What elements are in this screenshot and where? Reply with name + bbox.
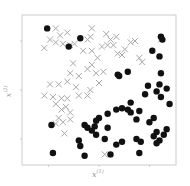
dot-marker bbox=[107, 151, 113, 157]
dot-marker bbox=[159, 36, 165, 42]
cross-marker bbox=[76, 93, 82, 99]
cross-marker bbox=[56, 81, 62, 87]
dot-marker bbox=[77, 35, 83, 41]
cross-marker bbox=[84, 37, 90, 43]
cross-marker bbox=[64, 79, 70, 85]
cross-marker bbox=[110, 42, 116, 48]
cross-marker bbox=[73, 84, 79, 90]
cross-marker bbox=[53, 39, 59, 45]
cross-marker bbox=[100, 69, 106, 75]
dot-marker bbox=[66, 43, 72, 49]
cross-marker bbox=[84, 93, 90, 99]
plot-frame bbox=[22, 15, 176, 165]
cross-marker bbox=[72, 41, 78, 47]
cross-marker bbox=[95, 55, 101, 61]
dot-marker bbox=[113, 141, 119, 147]
cross-marker bbox=[99, 44, 105, 50]
dot-marker bbox=[125, 106, 131, 112]
cross-marker bbox=[113, 34, 119, 40]
scatter-chart bbox=[0, 0, 190, 186]
cross-marker bbox=[89, 62, 95, 68]
cross-marker bbox=[96, 80, 102, 86]
dot-marker bbox=[119, 139, 125, 145]
dot-marker bbox=[136, 108, 142, 114]
dot-marker bbox=[153, 88, 159, 94]
cross-marker bbox=[47, 81, 53, 87]
cross-marker bbox=[76, 73, 82, 79]
cross-marker bbox=[67, 109, 73, 115]
dot-marker bbox=[149, 48, 155, 54]
cross-marker bbox=[53, 25, 59, 31]
cross-marker bbox=[108, 37, 114, 43]
dot-marker bbox=[116, 73, 122, 79]
cross-marker bbox=[57, 32, 63, 38]
dot-marker bbox=[136, 150, 142, 156]
cross-marker bbox=[122, 46, 128, 52]
dot-marker bbox=[44, 25, 50, 31]
dot-marker bbox=[156, 53, 162, 59]
dot-marker bbox=[161, 132, 167, 138]
cross-marker bbox=[80, 48, 86, 54]
dot-marker bbox=[166, 101, 172, 107]
cross-marker bbox=[93, 70, 99, 76]
cross-marker bbox=[59, 95, 65, 101]
dot-marker bbox=[163, 85, 169, 91]
cross-marker bbox=[115, 51, 121, 57]
dot-marker bbox=[153, 129, 159, 135]
cross-marker bbox=[53, 101, 59, 107]
dot-marker bbox=[76, 137, 82, 143]
dot-marker bbox=[145, 83, 151, 89]
cross-marker bbox=[64, 95, 70, 101]
dot-marker bbox=[104, 111, 110, 117]
cross-marker bbox=[67, 70, 73, 76]
dot-marker bbox=[77, 143, 83, 149]
cross-marker bbox=[41, 93, 47, 99]
cross-marker bbox=[50, 94, 56, 100]
dot-marker bbox=[127, 99, 133, 105]
cross-marker bbox=[67, 116, 73, 122]
dot-marker bbox=[119, 105, 125, 111]
dot-marker bbox=[102, 136, 108, 142]
cross-marker bbox=[132, 38, 138, 44]
cross-marker bbox=[41, 45, 47, 51]
dot-marker bbox=[146, 119, 152, 125]
dot-marker bbox=[156, 81, 162, 87]
x-axis-label: x(1) bbox=[92, 168, 104, 179]
y-axis-label: x(2) bbox=[2, 86, 13, 98]
dot-marker bbox=[158, 94, 164, 100]
cross-marker bbox=[61, 130, 67, 136]
cross-marker bbox=[119, 52, 125, 58]
dot-marker bbox=[81, 153, 87, 159]
cross-marker bbox=[105, 42, 111, 48]
dot-marker bbox=[81, 122, 87, 128]
cross-marker bbox=[60, 119, 66, 125]
dot-marker bbox=[48, 122, 54, 128]
dot-marker bbox=[158, 70, 164, 76]
dot-marker bbox=[96, 115, 102, 121]
dot-marker bbox=[50, 150, 56, 156]
dot-marker bbox=[93, 132, 99, 138]
cross-marker bbox=[89, 48, 95, 54]
dot-marker bbox=[138, 139, 144, 145]
dot-marker bbox=[104, 125, 110, 131]
cross-marker bbox=[70, 60, 76, 66]
dot-marker bbox=[163, 126, 169, 132]
cross-marker bbox=[139, 59, 145, 65]
cross-marker bbox=[87, 87, 93, 93]
cross-marker bbox=[60, 41, 66, 47]
cross-marker bbox=[47, 37, 53, 43]
dot-marker bbox=[125, 69, 131, 75]
cross-marker bbox=[89, 25, 95, 31]
cross-marker bbox=[102, 151, 108, 157]
dot-marker bbox=[153, 140, 159, 146]
dot-marker bbox=[133, 116, 139, 122]
cross-marker bbox=[64, 30, 70, 36]
dot-marker bbox=[113, 106, 119, 112]
cross-marker bbox=[136, 55, 142, 61]
cross-marker bbox=[103, 31, 109, 37]
dot-marker bbox=[142, 91, 148, 97]
cross-marker bbox=[128, 39, 134, 45]
